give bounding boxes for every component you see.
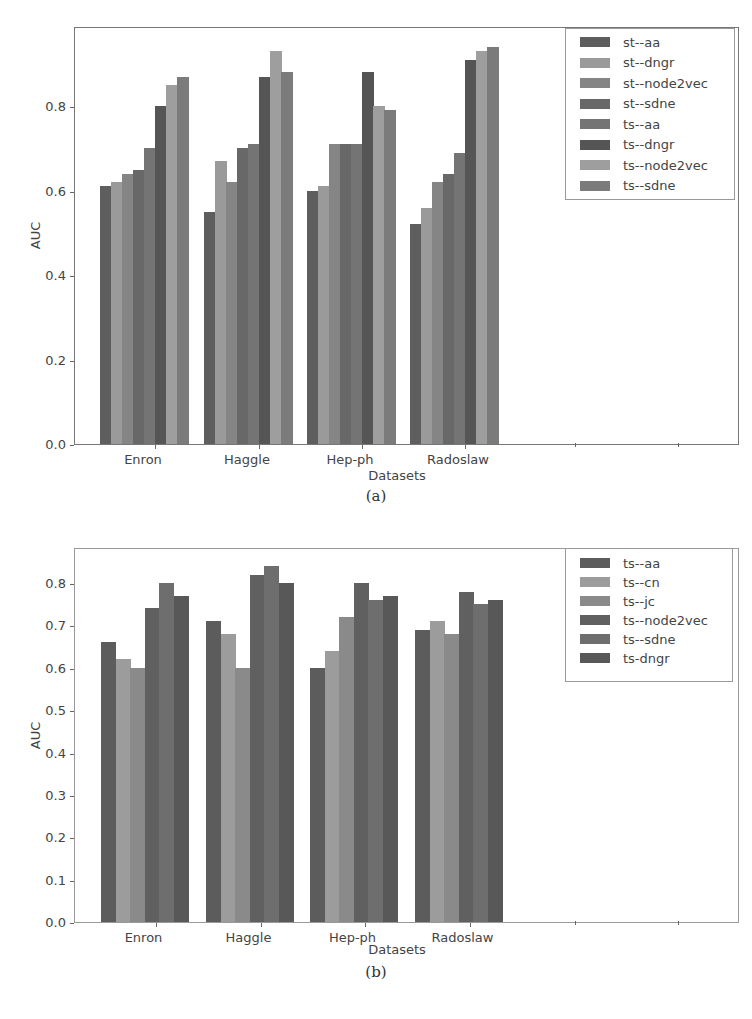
x-tick-label: Enron bbox=[99, 930, 189, 945]
bar bbox=[318, 186, 330, 444]
legend-swatch bbox=[580, 119, 610, 129]
bar bbox=[443, 174, 455, 444]
bar bbox=[454, 153, 466, 444]
bar bbox=[204, 212, 216, 444]
x-axis-label: Datasets bbox=[337, 468, 457, 483]
legend-item: ts--node2vec bbox=[580, 611, 708, 629]
legend-label: st--sdne bbox=[623, 96, 676, 111]
y-tick-label: 0.5 bbox=[26, 703, 66, 718]
bar bbox=[307, 191, 319, 444]
legend: ts--aats--cnts--jcts--node2vects--sdnets… bbox=[565, 548, 733, 682]
y-tick-label: 0.6 bbox=[26, 661, 66, 676]
bar bbox=[383, 596, 398, 922]
x-tick-mark bbox=[465, 445, 466, 449]
legend-swatch bbox=[580, 596, 610, 606]
bar bbox=[373, 106, 385, 444]
x-tick-mark bbox=[362, 445, 363, 449]
x-tick-label: Haggle bbox=[204, 930, 294, 945]
legend-label: ts--aa bbox=[623, 556, 660, 571]
bar bbox=[248, 144, 260, 444]
legend-label: ts--node2vec bbox=[623, 613, 708, 628]
bar bbox=[351, 144, 363, 444]
bar bbox=[279, 583, 294, 922]
y-tick-label: 0.7 bbox=[26, 618, 66, 633]
legend-swatch bbox=[580, 615, 610, 625]
y-tick-label: 0.0 bbox=[26, 437, 66, 452]
legend-label: st--node2vec bbox=[623, 76, 708, 91]
bar bbox=[221, 634, 236, 922]
y-tick-mark bbox=[70, 881, 74, 882]
bar bbox=[465, 60, 477, 444]
y-tick-mark bbox=[70, 711, 74, 712]
bar bbox=[415, 630, 430, 922]
legend-label: ts--cn bbox=[623, 575, 660, 590]
legend-swatch bbox=[580, 58, 610, 68]
legend-item: ts-dngr bbox=[580, 649, 670, 667]
bar bbox=[264, 566, 279, 922]
legend-item: st--sdne bbox=[580, 95, 676, 113]
x-tick-mark bbox=[678, 921, 679, 925]
x-tick-label: Radoslaw bbox=[413, 452, 503, 467]
legend-item: ts--aa bbox=[580, 115, 660, 133]
bar bbox=[487, 47, 499, 444]
y-tick-label: 0.6 bbox=[26, 184, 66, 199]
bar bbox=[130, 668, 145, 922]
bar bbox=[155, 106, 167, 444]
bar bbox=[166, 85, 178, 444]
bar bbox=[473, 604, 488, 922]
y-tick-mark bbox=[70, 584, 74, 585]
legend-item: st--node2vec bbox=[580, 74, 708, 92]
bar bbox=[421, 208, 433, 444]
bar bbox=[215, 161, 227, 444]
bar bbox=[325, 651, 340, 922]
bar bbox=[476, 51, 488, 444]
legend-item: ts--sdne bbox=[580, 177, 676, 195]
legend-label: ts--node2vec bbox=[623, 158, 708, 173]
y-tick-mark bbox=[70, 796, 74, 797]
bar bbox=[430, 621, 445, 922]
y-tick-label: 0.2 bbox=[26, 353, 66, 368]
legend-swatch bbox=[580, 181, 610, 191]
bar bbox=[340, 144, 352, 444]
bar bbox=[206, 621, 221, 922]
bar bbox=[362, 72, 374, 444]
legend-label: ts--dngr bbox=[623, 137, 674, 152]
legend-swatch bbox=[580, 140, 610, 150]
bar bbox=[488, 600, 503, 922]
x-tick-mark bbox=[575, 443, 576, 447]
bar bbox=[145, 608, 160, 922]
legend-item: ts--node2vec bbox=[580, 156, 708, 174]
y-tick-label: 0.2 bbox=[26, 830, 66, 845]
figure-caption: (b) bbox=[346, 963, 406, 981]
legend-swatch bbox=[580, 577, 610, 587]
bar bbox=[235, 668, 250, 922]
legend-swatch bbox=[580, 99, 610, 109]
bar bbox=[432, 182, 444, 444]
bar bbox=[459, 592, 474, 923]
x-tick-label: Hep-ph bbox=[305, 452, 395, 467]
legend-label: ts--aa bbox=[623, 117, 660, 132]
legend-item: ts--dngr bbox=[580, 136, 674, 154]
bar bbox=[226, 182, 238, 444]
legend-swatch bbox=[580, 653, 610, 663]
x-tick-mark bbox=[678, 443, 679, 447]
bar bbox=[111, 182, 123, 444]
y-tick-label: 0.1 bbox=[26, 873, 66, 888]
x-tick-mark bbox=[261, 923, 262, 927]
legend-item: ts--aa bbox=[580, 554, 660, 572]
legend-item: st--aa bbox=[580, 33, 660, 51]
y-tick-mark bbox=[70, 361, 74, 362]
legend-swatch bbox=[580, 634, 610, 644]
x-tick-label: Haggle bbox=[202, 452, 292, 467]
legend-swatch bbox=[580, 558, 610, 568]
bar bbox=[410, 224, 422, 444]
bar bbox=[329, 144, 341, 444]
bar bbox=[339, 617, 354, 922]
y-tick-label: 0.8 bbox=[26, 576, 66, 591]
bar bbox=[101, 642, 116, 922]
y-axis-label: AUC bbox=[28, 222, 43, 250]
y-tick-mark bbox=[70, 754, 74, 755]
legend-label: ts--jc bbox=[623, 594, 655, 609]
chart-a: 0.00.20.40.60.8EnronHaggleHep-phRadoslaw… bbox=[0, 0, 752, 505]
x-tick-label: Enron bbox=[98, 452, 188, 467]
